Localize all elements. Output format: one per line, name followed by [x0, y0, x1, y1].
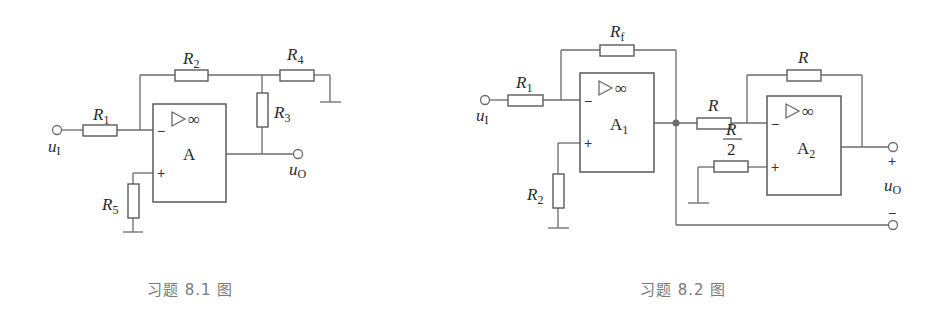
- label-r2: R2: [182, 49, 199, 71]
- label-output-uo: uO: [884, 176, 902, 197]
- label-r5: R5: [101, 195, 118, 217]
- label-r3: R3: [273, 103, 290, 125]
- opamp-label: A: [183, 145, 196, 164]
- figure-8-2-circuit: ∞ A1 − + ∞ A2 − + R1 Rf R2 R R R 2 uI: [476, 22, 902, 230]
- inverting-sign: −: [157, 123, 165, 139]
- resistor-r-feedback: [787, 70, 821, 81]
- resistor-r-half: [714, 161, 748, 172]
- a2-inverting-sign: −: [771, 116, 779, 132]
- infinity-symbol: ∞: [802, 102, 814, 121]
- output-plus-sign: +: [888, 153, 896, 169]
- resistor-r2: [553, 174, 564, 208]
- resistor-r5: [128, 184, 139, 218]
- label-r1: R1: [92, 105, 109, 127]
- infinity-symbol: ∞: [188, 110, 200, 129]
- a1-inverting-sign: −: [584, 93, 592, 109]
- output-terminal-minus: [889, 221, 898, 230]
- label-r-half: R 2: [723, 120, 742, 159]
- a1-noninverting-sign: +: [584, 135, 592, 151]
- output-terminal-plus: [889, 143, 898, 152]
- junction-node: [673, 120, 680, 127]
- figure-8-2-caption: 习题 8.2 图: [640, 278, 726, 299]
- resistor-r2: [175, 70, 208, 81]
- label-input-ui: uI: [48, 137, 61, 158]
- a2-noninverting-sign: +: [771, 159, 779, 175]
- label-r4: R4: [286, 45, 303, 67]
- opamp-triangle-icon: [786, 104, 799, 118]
- svg-text:R: R: [725, 120, 737, 139]
- figure-8-1-circuit: ∞ A − + R1 R2 R3 R4 R5 uI uO: [48, 45, 341, 232]
- resistor-r1: [508, 95, 543, 106]
- resistor-r4: [280, 70, 314, 81]
- output-terminal: [294, 150, 303, 159]
- resistor-rf: [600, 45, 634, 56]
- svg-text:2: 2: [727, 140, 736, 159]
- label-r2: R2: [526, 185, 543, 207]
- label-r-feedback: R: [797, 48, 809, 67]
- label-r1: R1: [515, 73, 532, 95]
- circuit-diagrams: ∞ A − + R1 R2 R3 R4 R5 uI uO: [0, 0, 940, 317]
- label-r-series: R: [707, 96, 719, 115]
- label-output-uo: uO: [289, 160, 307, 181]
- figure-8-1-caption: 习题 8.1 图: [147, 278, 233, 299]
- noninverting-sign: +: [157, 165, 165, 181]
- resistor-r1: [83, 125, 117, 136]
- output-minus-sign: −: [888, 205, 896, 221]
- resistor-r3: [257, 93, 268, 127]
- input-terminal: [53, 126, 62, 135]
- opamp-a1-label: A1: [610, 115, 628, 137]
- input-terminal: [481, 96, 490, 105]
- opamp-triangle-icon: [599, 81, 612, 95]
- opamp-triangle-icon: [172, 112, 185, 126]
- label-input-ui: uI: [476, 106, 489, 127]
- label-rf: Rf: [609, 22, 624, 44]
- opamp-a2-label: A2: [797, 139, 815, 161]
- infinity-symbol: ∞: [615, 79, 627, 98]
